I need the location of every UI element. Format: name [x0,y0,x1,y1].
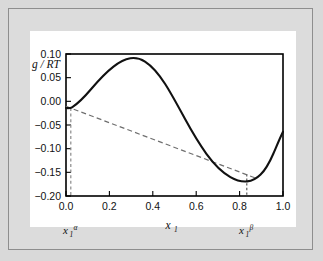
y-ticklabel: 0.05 [41,71,62,83]
x-axis-label: x 1 [164,219,177,234]
x-ticklabel: 1.0 [276,200,291,212]
y-ticklabel: −0.05 [34,119,61,131]
x-ticklabel: 0.6 [189,200,204,212]
y-ticklabel: −0.10 [34,142,61,154]
x-ticklabel: 0.4 [145,200,160,212]
x-ticklabels: 0.0 0.2 0.4 0.6 0.8 1.0 [59,200,291,212]
y-ticklabel: −0.20 [34,190,61,202]
annotation-x1-beta-sup: β [249,223,254,232]
x-axis-label-base: x [164,219,171,231]
common-tangent-line [66,106,257,178]
x-ticklabel: 0.0 [59,200,74,212]
annotation-x1-beta: x 1 β [238,223,254,240]
figure-root: 0.10 0.05 0.00 −0.05 −0.10 −0.15 −0.20 0… [0,0,323,261]
annotation-x1-alpha-base: x [62,224,68,236]
x-axis-label-sub: 1 [174,225,178,234]
y-ticklabel: 0.00 [41,95,62,107]
annotation-x1-beta-base: x [238,224,244,236]
x-ticklabel: 0.2 [102,200,117,212]
chart-canvas: 0.10 0.05 0.00 −0.05 −0.10 −0.15 −0.20 0… [0,0,323,261]
y-ticklabels: 0.10 0.05 0.00 −0.05 −0.10 −0.15 −0.20 [34,48,61,202]
annotation-x1-alpha-sup: α [74,223,79,232]
axes-frame [66,54,283,196]
x-ticklabel: 0.8 [232,200,247,212]
y-ticklabel: −0.15 [34,166,61,178]
y-axis-label: g / RT [32,58,62,71]
annotation-x1-alpha: x 1 α [62,223,79,240]
gibbs-energy-curve [66,58,283,181]
